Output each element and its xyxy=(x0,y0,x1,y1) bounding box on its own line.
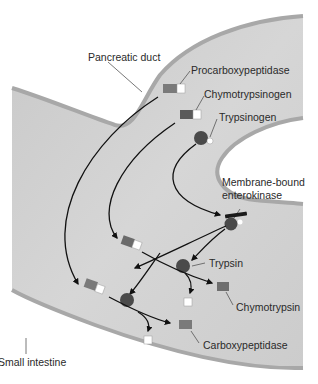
chymotrypsin-molecule xyxy=(217,282,229,291)
released-peptide xyxy=(184,298,192,306)
label-trypsin: Trypsin xyxy=(209,257,243,269)
label-procarboxypeptidase: Procarboxypeptidase xyxy=(191,64,290,76)
label-pancreatic-duct: Pancreatic duct xyxy=(88,51,160,63)
label-chymotrypsinogen: Chymotrypsinogen xyxy=(204,88,292,100)
leader-line xyxy=(108,62,142,92)
procarboxypeptidase-molecule xyxy=(163,84,185,93)
released-peptide-lower xyxy=(144,336,152,344)
label-membrane-bound: Membrane-bound xyxy=(222,176,305,188)
label-chymotrypsin: Chymotrypsin xyxy=(236,301,300,313)
chymotrypsinogen-molecule xyxy=(180,110,201,119)
carboxypeptidase-molecule xyxy=(179,320,192,329)
trypsin-molecule-lower xyxy=(120,293,134,307)
label-enterokinase: enterokinase xyxy=(222,189,282,201)
label-trypsinogen: Trypsinogen xyxy=(219,111,277,123)
label-carboxypeptidase: Carboxypeptidase xyxy=(203,339,288,351)
label-small-intestine: Small intestine xyxy=(0,356,66,368)
zymogen-activation-diagram: Pancreatic duct Procarboxypeptidase Chym… xyxy=(0,0,318,384)
